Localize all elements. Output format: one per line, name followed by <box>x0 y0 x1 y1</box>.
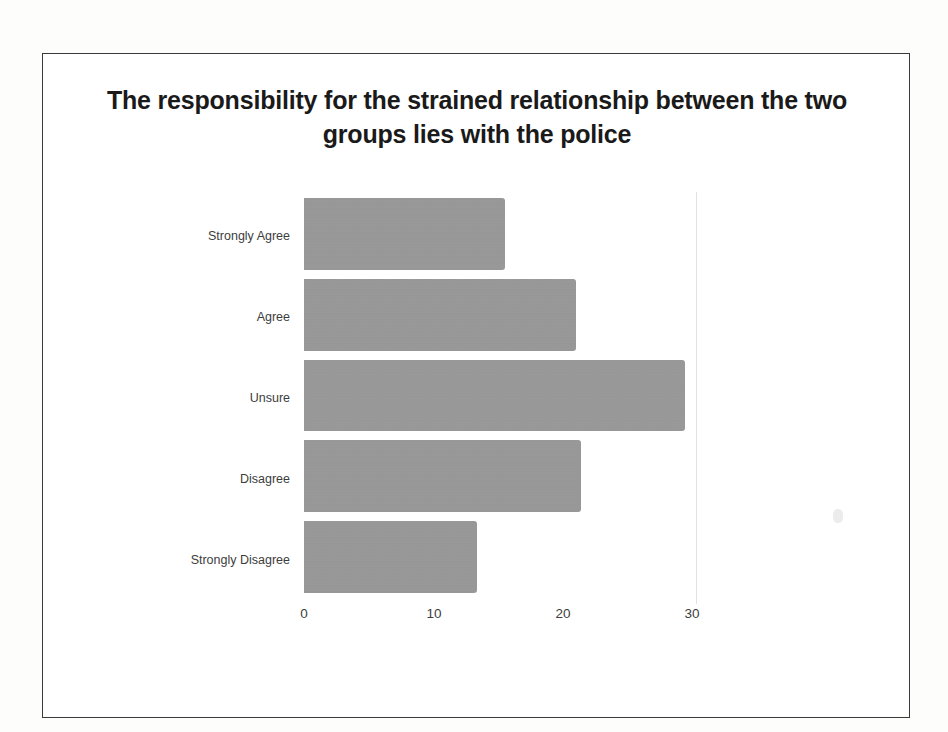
x-tick-20: 20 <box>555 606 570 621</box>
bar-row: Strongly Disagree <box>304 519 744 600</box>
bar-disagree[interactable] <box>304 440 581 512</box>
category-label-strongly-disagree: Strongly Disagree <box>191 553 290 567</box>
slide-frame: The responsibility for the strained rela… <box>42 53 910 718</box>
x-tick-10: 10 <box>426 606 441 621</box>
category-label-disagree: Disagree <box>240 472 290 486</box>
x-axis: 0 10 20 30 <box>304 606 744 630</box>
bar-row: Agree <box>304 277 744 358</box>
bar-strongly-agree[interactable] <box>304 198 505 270</box>
bar-agree[interactable] <box>304 279 576 351</box>
bar-row: Disagree <box>304 438 744 519</box>
chart-plot-area: Strongly Agree Agree Unsure Disagree Str <box>43 54 911 719</box>
bars-layer: Strongly Agree Agree Unsure Disagree Str <box>304 196 744 600</box>
bar-strongly-disagree[interactable] <box>304 521 477 593</box>
bar-unsure[interactable] <box>304 360 685 432</box>
category-label-agree: Agree <box>257 310 290 324</box>
bar-row: Unsure <box>304 358 744 439</box>
category-label-strongly-agree: Strongly Agree <box>208 229 290 243</box>
x-tick-30: 30 <box>684 606 699 621</box>
scanned-page: The responsibility for the strained rela… <box>0 0 948 732</box>
scan-speck <box>833 509 843 523</box>
bar-row: Strongly Agree <box>304 196 744 277</box>
x-tick-0: 0 <box>300 606 308 621</box>
category-label-unsure: Unsure <box>250 391 290 405</box>
